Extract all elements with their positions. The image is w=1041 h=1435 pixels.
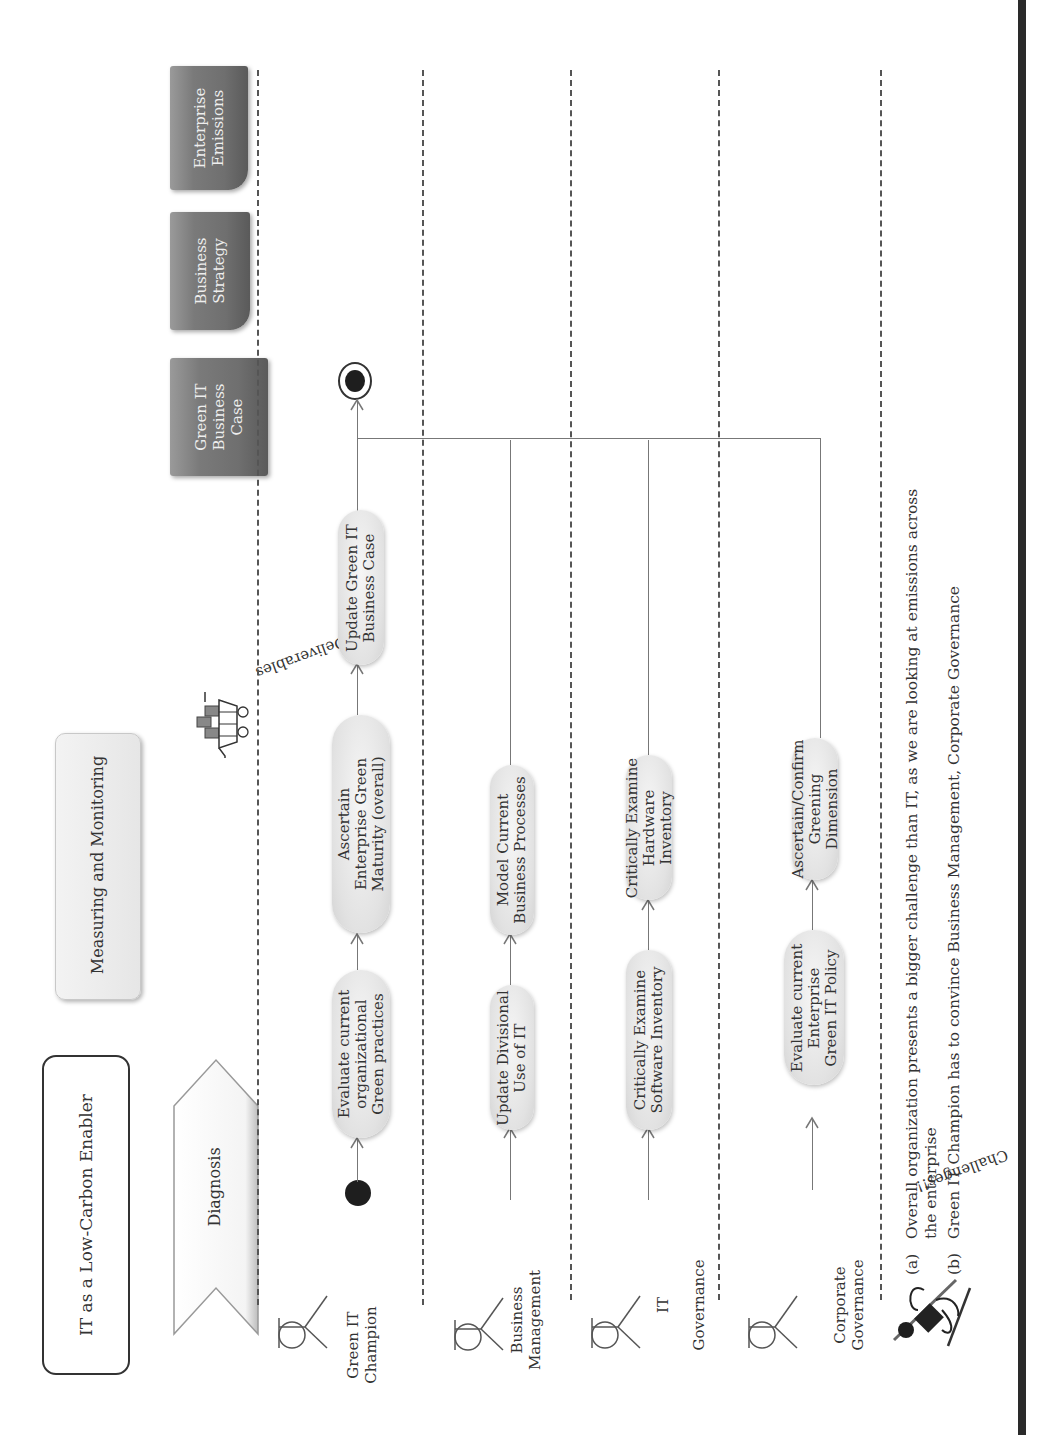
lane-divider-3 — [718, 70, 720, 1300]
challenge-item-a: (a) Overall organization presents a bigg… — [895, 275, 922, 1275]
actor-label-it-governance: IT Governance — [654, 1250, 720, 1360]
flow-edge — [357, 935, 358, 970]
page-edge-bar — [1018, 0, 1026, 1435]
lane-divider-2 — [570, 70, 572, 1300]
title-box: IT as a Low-Carbon Enabler — [42, 1055, 130, 1375]
activity-examine-hardware-inventory[interactable]: Critically Examine Hardware Inventory — [626, 755, 672, 900]
title-box-label: IT as a Low-Carbon Enabler — [44, 1057, 128, 1373]
flow-edge — [510, 1130, 511, 1200]
phase-label: Diagnosis — [184, 1077, 244, 1297]
actor-icon-business-management — [448, 1292, 508, 1352]
activity-examine-software-inventory[interactable]: Critically Examine Software Inventory — [626, 950, 672, 1130]
final-node — [338, 362, 372, 400]
activity-confirm-greening-dimension[interactable]: Ascertain/Confirm Greening Dimension — [792, 738, 838, 880]
flow-edge — [648, 440, 649, 755]
challenge-item-a-cont: the enterprise — [922, 275, 941, 1275]
deliverable-doc-enterprise-emissions[interactable]: Enterprise Emissions — [170, 66, 248, 190]
deliverable-doc-green-it-business-case[interactable]: Green IT Business Case — [170, 358, 268, 476]
flow-edge — [510, 935, 511, 985]
lane-divider-4 — [880, 70, 882, 1300]
flow-edge — [357, 400, 358, 418]
arrowheads — [0, 0, 1041, 1435]
lane-divider-0 — [257, 70, 259, 1305]
actor-icon-green-it-champion — [272, 1290, 332, 1350]
stage-box-label: Measuring and Monitoring — [56, 734, 138, 996]
activity-model-business-processes[interactable]: Model Current Business Processes — [490, 765, 534, 935]
deliverables-cart-icon — [185, 690, 251, 760]
activity-evaluate-green-practices[interactable]: Evaluate current organizational Green pr… — [332, 970, 390, 1138]
actor-icon-it-governance — [585, 1290, 645, 1350]
actor-label-corporate-governance: Corporate Governance — [831, 1250, 875, 1360]
activity-update-divisional-use-of-it[interactable]: Update Divisional Use of IT — [490, 985, 534, 1130]
flow-edge — [812, 880, 813, 930]
flow-edge — [648, 1130, 649, 1200]
flow-edge — [648, 900, 649, 950]
actor-icon-corporate-governance — [742, 1290, 802, 1350]
merge-edge — [357, 438, 820, 439]
deliverable-doc-business-strategy[interactable]: Business Strategy — [170, 212, 250, 330]
challenge-item-b: (b) Green IT Champion has to convince Bu… — [941, 275, 964, 1275]
flow-edge — [357, 665, 358, 715]
stage-box: Measuring and Monitoring — [55, 733, 141, 1000]
flow-edge — [357, 1140, 358, 1182]
activity-ascertain-green-maturity[interactable]: Ascertain Enterprise Green Maturity (ove… — [332, 715, 390, 933]
actor-label-business-management: Business Management — [508, 1260, 552, 1380]
actor-label-green-it-champion: Green IT Champion — [340, 1290, 384, 1400]
flow-edge — [820, 438, 821, 738]
lane-divider-1 — [422, 70, 424, 1305]
deliverables-label: Deliverables — [237, 627, 349, 687]
flow-edge — [510, 440, 511, 765]
activity-evaluate-green-it-policy[interactable]: Evaluate current Enterprise Green IT Pol… — [784, 930, 844, 1085]
challenges-list: (a) Overall organization presents a bigg… — [895, 275, 1005, 1275]
initial-node — [345, 1180, 371, 1206]
flow-edge — [812, 1120, 813, 1190]
activity-update-business-case[interactable]: Update Green IT Business Case — [338, 510, 384, 665]
